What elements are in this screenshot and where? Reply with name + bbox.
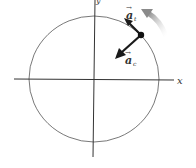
y-axis bbox=[93, 0, 95, 157]
circular-motion-diagram: x y → a t → a c bbox=[0, 0, 196, 168]
motion-direction-arrow-icon bbox=[141, 9, 166, 36]
x-axis-label: x bbox=[177, 75, 183, 86]
y-axis-label: y bbox=[95, 0, 101, 5]
svg-text:a: a bbox=[126, 9, 133, 22]
centripetal-acceleration-label: → a c bbox=[125, 49, 137, 67]
svg-text:c: c bbox=[133, 60, 137, 67]
svg-text:a: a bbox=[125, 54, 132, 67]
particle-dot bbox=[138, 32, 144, 38]
tangential-acceleration-label: → a t bbox=[126, 4, 137, 22]
svg-text:t: t bbox=[134, 15, 137, 22]
